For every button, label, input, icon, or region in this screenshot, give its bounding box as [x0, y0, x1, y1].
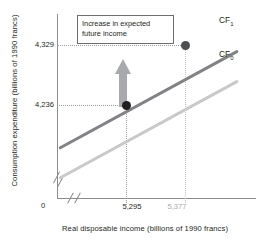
- origin-label: 0: [41, 201, 45, 210]
- series-line-cf0: [58, 80, 239, 180]
- shift-arrow-icon: [115, 59, 131, 107]
- y-tick-label-upper: 4,329: [14, 40, 54, 49]
- annotation-callout: Increase in expected future income: [77, 15, 174, 44]
- guide-line-x-left: [126, 105, 127, 205]
- data-point-new: [181, 41, 190, 50]
- series-label-cf1: CF1: [219, 15, 234, 27]
- guide-line-y-upper: [57, 45, 185, 46]
- x-tick-label-right: 5,377: [154, 202, 200, 211]
- consumption-function-chart: Consumption expenditure (billions of 199…: [0, 0, 258, 239]
- series-label-cf0-subscript: 0: [230, 55, 233, 61]
- series-label-cf0-base: CF: [219, 49, 230, 59]
- guide-line-x-right: [185, 45, 186, 205]
- annotation-line-1: Increase in expected: [82, 19, 169, 29]
- annotation-line-2: future income: [82, 29, 169, 39]
- series-label-cf1-base: CF: [219, 15, 230, 25]
- x-tick-label-left: 5,295: [109, 202, 155, 211]
- x-axis-title: Real disposable income (billions of 1990…: [34, 224, 256, 233]
- series-label-cf1-subscript: 1: [230, 21, 233, 27]
- data-point-initial: [122, 101, 131, 110]
- series-line-cf1: [58, 50, 239, 150]
- y-tick-label-lower: 4,236: [14, 100, 54, 109]
- series-label-cf0: CF0: [219, 49, 234, 61]
